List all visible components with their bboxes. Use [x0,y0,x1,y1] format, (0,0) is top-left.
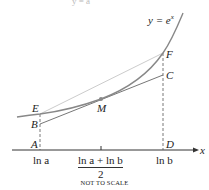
diagram: y = a y = ex F C E B M A D x ln a ln a +… [0,0,209,190]
label-M: M [97,103,106,114]
tick-ln-a: ln a [33,155,49,166]
label-B: B [31,119,38,130]
label-D: D [166,139,174,150]
x-axis-arrow-icon [193,148,199,153]
label-E: E [32,103,39,114]
label-F: F [166,49,173,60]
curve-label: y = ex [148,14,174,26]
label-C: C [166,70,173,81]
tick-ln-b: ln b [156,155,173,166]
point-M [99,97,103,101]
not-to-scale-note: NOT TO SCALE [0,179,209,186]
tick-mid-numerator: ln a + ln b [78,155,123,168]
label-A: A [31,139,38,150]
axis-label-x: x [200,145,205,156]
